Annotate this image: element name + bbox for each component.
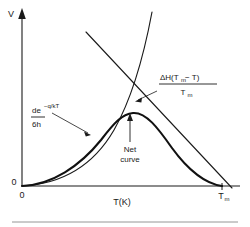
nucleation-numerator-exponent: −q/kT xyxy=(44,103,60,109)
x-axis-max-tick-subscript: m xyxy=(225,196,230,202)
driving-force-numerator-b: − T) xyxy=(185,73,200,82)
driving-force-denominator-subscript: m xyxy=(188,92,193,98)
x-axis-max-tick-main: T xyxy=(218,191,224,201)
y-axis-origin-tick: 0 xyxy=(11,177,16,187)
x-axis-origin-tick: 0 xyxy=(19,190,24,200)
net-curve-label-line2: curve xyxy=(120,155,140,164)
driving-force-denominator-main: T xyxy=(181,88,186,97)
crystal-growth-rate-plot: V 0 0 T(K) T m ΔH(T m − T) T m de −q/kT xyxy=(0,0,250,227)
x-axis-label: T(K) xyxy=(113,197,131,207)
y-axis-label: V xyxy=(8,9,14,19)
driving-force-numerator-a: ΔH(T xyxy=(160,73,179,82)
net-curve-label-line1: Net xyxy=(124,145,137,154)
figure-container: V 0 0 T(K) T m ΔH(T m − T) T m de −q/kT xyxy=(0,0,250,227)
nucleation-numerator-main: de xyxy=(32,106,41,115)
nucleation-denominator: 6h xyxy=(32,120,41,129)
